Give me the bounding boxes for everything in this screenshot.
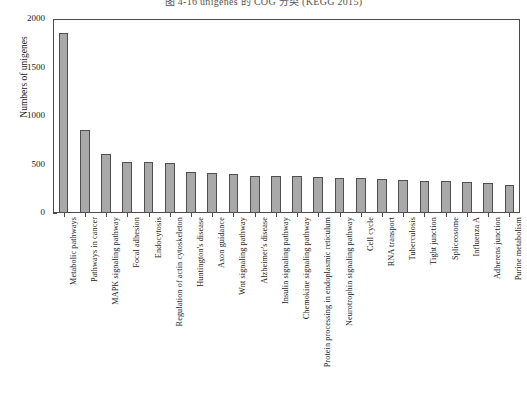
bar-slot [250,19,260,213]
y-tick-label: 0 [41,207,46,217]
bar-slot [462,19,472,213]
x-label-holder: Alzheimer's disease [244,213,265,403]
x-label-holder: Pathways in cancer [74,213,95,403]
bar[interactable] [144,162,154,213]
x-label-holder: Spliceosome [435,213,456,403]
y-tick-label: 1000 [27,110,45,120]
x-label-holder: Endocytosis [138,213,159,403]
bar[interactable] [207,173,217,213]
bar-slot [207,19,217,213]
x-label-holder: Protein processing in endoplasmic reticu… [308,213,329,403]
bar-slot [335,19,345,213]
x-label-holder: Wnt signaling pathway [223,213,244,403]
bar-slot [122,19,132,213]
x-label-holder: Tuberculosis [393,213,414,403]
x-label-holder: Influenza A [456,213,477,403]
y-tick-label: 500 [32,159,46,169]
bar-slot [186,19,196,213]
bar[interactable] [186,172,196,213]
y-tick-label: 1500 [27,62,45,72]
x-label-holder: Focal adhesion [117,213,138,403]
bar[interactable] [250,176,260,213]
bar-slot [292,19,302,213]
x-label-holder: Metabolic pathways [53,213,74,403]
bar[interactable] [165,163,175,213]
x-label-holder: RNA transport [371,213,392,403]
bar-slot [80,19,90,213]
bar-slot [313,19,323,213]
x-label-holder: Adherens junction [478,213,499,403]
x-label-holder: Tight junction [414,213,435,403]
x-label-holder: Regulation of actin cytoskeleton [159,213,180,403]
bar-slot [441,19,451,213]
bar[interactable] [420,181,430,213]
x-label-holder: Neurotrophin signaling pathway [329,213,350,403]
x-label-holder: Insulin signaling pathway [265,213,286,403]
bar-slot [420,19,430,213]
bar[interactable] [441,181,451,213]
bar[interactable] [229,174,239,213]
bar-slot [229,19,239,213]
bar-slot [377,19,387,213]
bar-slot [271,19,281,213]
bar[interactable] [483,183,493,213]
x-label-holder: Axon guidance [202,213,223,403]
x-tick-label: Purine metabolism [514,217,523,280]
bar-slot [165,19,175,213]
y-axis-title: Numbers of unigenes [19,0,29,157]
x-label-holder: Cell cycle [350,213,371,403]
bar-slot [505,19,515,213]
x-label-holder: MAPK signaling pathway [95,213,116,403]
bar[interactable] [505,185,515,213]
x-label-holder: Huntington's disease [180,213,201,403]
bar-slot [483,19,493,213]
bar[interactable] [80,130,90,213]
y-tick-label: 2000 [27,13,45,23]
bar[interactable] [271,176,281,213]
figure-caption: 图 4-16 unigenes 的 COG 分类 (KEGG 2015) [0,0,527,8]
bar[interactable] [398,180,408,213]
bar[interactable] [377,179,387,213]
bar-slot [144,19,154,213]
bar-slot [101,19,111,213]
bar-slot [356,19,366,213]
bars-layer [53,19,520,213]
x-axis-labels: Metabolic pathwaysPathways in cancerMAPK… [53,213,520,403]
bar[interactable] [59,33,69,213]
bar-slot [398,19,408,213]
bar[interactable] [462,182,472,213]
bar[interactable] [292,176,302,213]
bar-slot [59,19,69,213]
bar[interactable] [122,162,132,213]
x-label-holder: Chemokine signaling pathway [287,213,308,403]
bar[interactable] [101,154,111,213]
x-label-holder: Purine metabolism [499,213,520,403]
bar[interactable] [356,178,366,213]
bar[interactable] [313,177,323,213]
bar[interactable] [335,178,345,213]
